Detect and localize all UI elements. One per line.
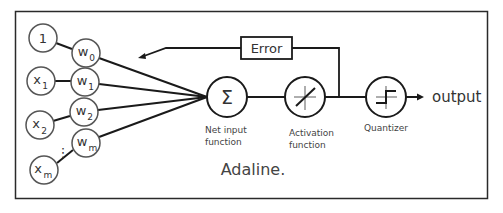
error-label: Error [251, 41, 283, 56]
weight-label: w [77, 73, 88, 88]
input-node-xm: x m [30, 156, 58, 184]
net-input-caption-line2: function [205, 137, 242, 147]
activation-caption-line2: function [289, 140, 326, 150]
input-label: x [33, 72, 41, 87]
sigma-icon: Σ [221, 86, 233, 108]
weight-node-w2: w 2 [70, 98, 98, 126]
weight-node-wm: w m [72, 129, 100, 157]
input-node-bias: 1 [29, 24, 57, 52]
input-node-x2: x 2 [26, 111, 54, 139]
diagram-title: Adaline. [221, 160, 286, 179]
weight-label: w [76, 103, 87, 118]
weight-label: w [78, 44, 89, 59]
error-box: Error [241, 37, 292, 59]
net-input-caption-line1: Net input [205, 125, 247, 135]
quantizer-caption: Quantizer [364, 123, 408, 133]
ellipsis-icon: ⋮ [57, 145, 70, 160]
input-subscript: 1 [42, 81, 48, 91]
weight-node-w1: w 1 [71, 68, 99, 96]
activation-caption-line1: Activation [289, 128, 334, 138]
activation-node [285, 77, 325, 117]
input-node-x1: x 1 [27, 67, 55, 95]
input-label: 1 [39, 31, 47, 46]
weight-subscript: 1 [88, 82, 94, 92]
quantizer-node [366, 77, 406, 117]
adaline-diagram: 1 x 1 x 2 x m ⋮ w 0 w 1 w 2 w m [0, 0, 503, 213]
weight-label: w [77, 134, 88, 149]
input-label: x [32, 116, 40, 131]
weight-subscript: m [89, 143, 98, 153]
weight-node-w0: w 0 [72, 39, 100, 67]
net-input-node: Σ [207, 77, 247, 117]
input-subscript: m [44, 170, 53, 180]
input-subscript: 2 [41, 126, 47, 136]
input-label: x [34, 161, 42, 176]
weight-subscript: 2 [87, 112, 93, 122]
output-label: output [432, 88, 482, 106]
weight-subscript: 0 [89, 53, 95, 63]
